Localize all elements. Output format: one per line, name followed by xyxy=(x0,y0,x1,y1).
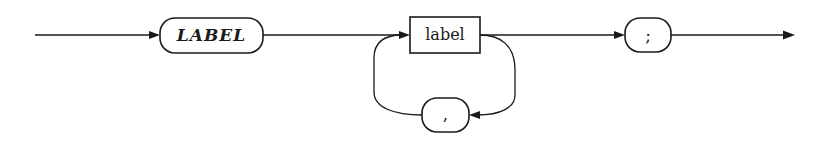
nonterminal-label-node: label xyxy=(410,17,480,53)
keyword-label-node: LABEL xyxy=(160,18,263,53)
loop-line-right xyxy=(477,35,515,115)
semicolon-node: ; xyxy=(625,18,671,52)
comma-text: , xyxy=(443,104,448,124)
arrow-icon xyxy=(469,111,480,119)
arrow-icon xyxy=(783,31,795,40)
semicolon-text: ; xyxy=(645,25,651,45)
nonterminal-label-text: label xyxy=(425,25,464,44)
arrow-icon xyxy=(149,31,160,39)
syntax-diagram: LABEL label , ; xyxy=(0,0,815,143)
keyword-label-text: LABEL xyxy=(176,25,246,45)
comma-node: , xyxy=(422,98,469,132)
arrow-icon xyxy=(614,31,625,39)
